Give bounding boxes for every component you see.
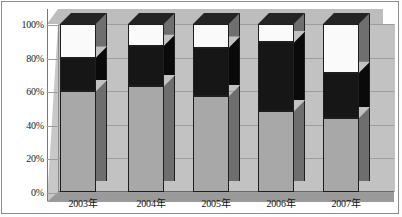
bar-segment-white[interactable]	[60, 24, 96, 58]
chart-root: 100%80%60%40%20%0% 2003年2004年2005年2006年2…	[0, 0, 402, 217]
bar-column[interactable]	[193, 0, 229, 217]
bar-segment-gray[interactable]	[258, 111, 294, 192]
bar-column[interactable]	[323, 0, 359, 217]
bar-column[interactable]	[60, 0, 96, 217]
bar-column[interactable]	[258, 0, 294, 217]
bar-segment-side-black	[294, 31, 305, 100]
bar-segment-gray[interactable]	[323, 118, 359, 192]
y-axis-tick-label: 40%	[0, 119, 44, 130]
bar-segment-side-gray	[359, 107, 370, 181]
bar-segment-black[interactable]	[258, 42, 294, 111]
y-axis-tick-label: 100%	[0, 19, 44, 30]
bar-segment-white[interactable]	[128, 24, 164, 46]
bar-segment-side-gray	[229, 85, 240, 181]
x-axis-label: 2007年	[306, 195, 386, 210]
y-axis-tick-label: 0%	[0, 187, 44, 198]
bar-segment-side-gray	[164, 75, 175, 181]
bar-segment-white[interactable]	[323, 24, 359, 73]
bar-segment-side-gray	[96, 80, 107, 181]
bar-segment-white[interactable]	[193, 24, 229, 48]
bar-segment-gray[interactable]	[60, 91, 96, 192]
bar-segment-white[interactable]	[258, 24, 294, 42]
y-axis-tick-label: 20%	[0, 153, 44, 164]
bar-segment-black[interactable]	[128, 46, 164, 86]
bar-segment-gray[interactable]	[128, 86, 164, 192]
y-axis-tick-label: 60%	[0, 86, 44, 97]
bar-segment-black[interactable]	[193, 48, 229, 97]
bar-segment-gray[interactable]	[193, 96, 229, 192]
bar-column[interactable]	[128, 0, 164, 217]
bar-segment-black[interactable]	[323, 73, 359, 118]
bar-segment-black[interactable]	[60, 58, 96, 92]
bar-segment-side-gray	[294, 100, 305, 181]
y-axis-line	[47, 9, 48, 201]
y-axis-tick-label: 80%	[0, 52, 44, 63]
